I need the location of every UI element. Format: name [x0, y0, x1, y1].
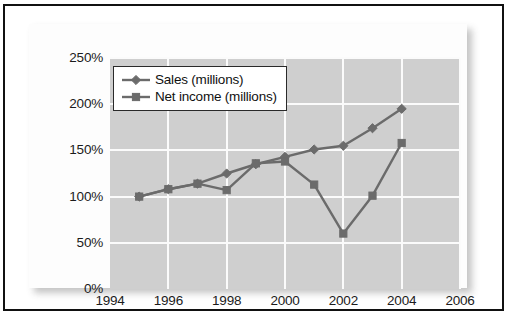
x-axis-tick-label: 2000	[255, 293, 315, 308]
x-axis-tick-label: 2006	[430, 293, 490, 308]
legend-item: Net income (millions)	[121, 88, 277, 105]
x-axis-tick-label: 1996	[138, 293, 198, 308]
data-point-marker	[311, 181, 318, 188]
legend-item-label: Net income (millions)	[155, 89, 277, 104]
y-axis-tick-label: 200%	[29, 96, 103, 111]
data-point-marker	[136, 193, 143, 200]
legend-item: Sales (millions)	[121, 71, 277, 88]
chart-legend: Sales (millions)Net income (millions)	[113, 66, 287, 111]
y-axis-tick-label: 250%	[29, 50, 103, 65]
series-line	[139, 143, 402, 234]
data-point-marker	[310, 145, 319, 154]
series-1	[135, 104, 407, 201]
x-axis-tick-label: 2004	[372, 293, 432, 308]
x-axis-tick-label: 2002	[313, 293, 373, 308]
y-axis-tick-label: 100%	[29, 189, 103, 204]
legend-item-label: Sales (millions)	[155, 72, 243, 87]
y-axis-tick-label: 50%	[29, 235, 103, 250]
data-point-marker	[340, 230, 347, 237]
series-2	[136, 139, 406, 237]
data-point-marker	[165, 186, 172, 193]
series-line	[139, 109, 402, 197]
data-point-marker	[194, 180, 201, 187]
data-point-marker	[252, 160, 259, 167]
data-point-marker	[281, 158, 288, 165]
data-point-marker	[222, 169, 231, 178]
data-point-marker	[223, 187, 230, 194]
x-axis-tick-label: 1994	[80, 293, 140, 308]
data-point-marker	[369, 192, 376, 199]
chart-card: 0%50%100%150%200%250% 199419961998200020…	[29, 24, 467, 288]
data-point-marker	[398, 139, 405, 146]
outer-frame-border: 0%50%100%150%200%250% 199419961998200020…	[3, 4, 504, 311]
screenshot-root: 0%50%100%150%200%250% 199419961998200020…	[0, 0, 511, 322]
x-axis-tick-label: 1998	[197, 293, 257, 308]
legend-diamond-marker-icon	[121, 73, 151, 87]
legend-square-marker-icon	[121, 90, 151, 104]
y-axis-tick-label: 150%	[29, 142, 103, 157]
